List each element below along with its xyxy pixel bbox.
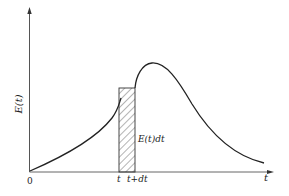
hatched-strip [119, 88, 135, 172]
y-axis-arrow-icon [27, 7, 31, 14]
rtd-diagram: E(t) 0 t t+dt E(t)dt t [0, 0, 289, 196]
strip-left-label: t [117, 174, 121, 184]
strip-area-label: E(t)dt [137, 134, 165, 144]
x-axis-arrow-icon [267, 170, 274, 174]
x-axis [30, 170, 275, 174]
y-axis-label: E(t) [13, 94, 24, 114]
strip-right-label: t+dt [127, 174, 148, 184]
y-axis [27, 7, 31, 172]
distribution-curve [30, 63, 264, 171]
origin-label: 0 [27, 176, 33, 186]
x-axis-label: t [264, 172, 269, 183]
